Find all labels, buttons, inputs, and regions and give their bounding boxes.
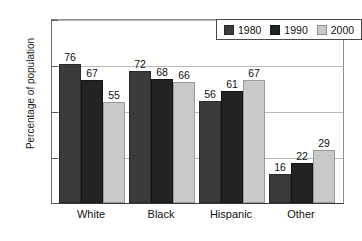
x-axis-label-other: Other: [260, 208, 342, 220]
bar-group-white: 766755: [59, 64, 125, 203]
bar-value-label: 56: [204, 88, 216, 100]
bar-value-label: 66: [178, 69, 190, 81]
bar-hispanic-2000: 67: [243, 80, 265, 203]
bar-group-black: 726866: [129, 71, 195, 203]
legend-entry-1990: 1990: [270, 24, 307, 36]
bar-value-label: 67: [248, 67, 260, 79]
bar-value-label: 16: [274, 161, 286, 173]
legend-label-2000: 2000: [331, 24, 354, 36]
bar-value-label: 61: [226, 78, 238, 90]
legend-label-1990: 1990: [284, 24, 307, 36]
legend-swatch-1990-icon: [270, 25, 280, 35]
y-tick-75: [52, 66, 58, 67]
legend-entry-1980: 1980: [224, 24, 261, 36]
bar-other-1990: 22: [291, 163, 313, 203]
bar-black-1980: 72: [129, 71, 151, 203]
legend: 1980 1990 2000: [216, 19, 362, 40]
bar-value-label: 29: [318, 137, 330, 149]
bar-other-1980: 16: [269, 174, 291, 203]
legend-entry-2000: 2000: [317, 24, 354, 36]
bar-hispanic-1990: 61: [221, 91, 243, 203]
legend-swatch-1980-icon: [224, 25, 234, 35]
bar-hispanic-1980: 56: [199, 101, 221, 203]
bar-other-2000: 29: [313, 150, 335, 203]
plot-area: 100 75 50 25 0 766755726866566167162229: [51, 19, 344, 204]
bar-value-label: 72: [134, 58, 146, 70]
bar-black-1990: 68: [151, 79, 173, 203]
bar-value-label: 67: [86, 67, 98, 79]
bar-value-label: 55: [108, 89, 120, 101]
y-tick-50: [52, 112, 58, 113]
legend-swatch-2000-icon: [317, 25, 327, 35]
bar-white-2000: 55: [103, 102, 125, 203]
y-axis-title: Percentage of population: [25, 9, 36, 179]
bar-group-other: 162229: [269, 150, 335, 203]
y-tick-25: [52, 158, 58, 159]
bar-white-1980: 76: [59, 64, 81, 203]
legend-label-1980: 1980: [238, 24, 261, 36]
bar-value-label: 76: [64, 51, 76, 63]
bar-black-2000: 66: [173, 82, 195, 203]
bar-group-hispanic: 566167: [199, 80, 265, 203]
bar-value-label: 22: [296, 150, 308, 162]
bar-white-1990: 67: [81, 80, 103, 203]
y-tick-100: [52, 20, 58, 21]
bar-value-label: 68: [156, 66, 168, 78]
y-tick-0: [52, 203, 58, 204]
